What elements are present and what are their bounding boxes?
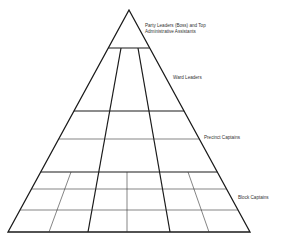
level-label-precinct-captains: Precinct Captains [204, 135, 240, 141]
level-label-ward-leaders: Ward Leaders [173, 75, 202, 81]
level-label-block-captains: Block Captains [238, 195, 269, 201]
pyramid-outline [8, 10, 250, 232]
pyramid-diagram [0, 0, 284, 245]
level-label-line: Administrative Assistants [145, 29, 206, 35]
block-column-3 [188, 172, 209, 232]
level-label-line: Party Leaders (Boss) and Top [145, 23, 206, 29]
level-label-party-leaders: Party Leaders (Boss) and Top Administrat… [145, 23, 206, 34]
block-column-1 [49, 172, 71, 232]
